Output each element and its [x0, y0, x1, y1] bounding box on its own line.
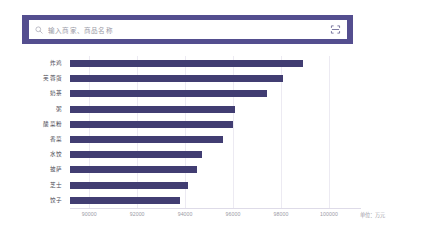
- bar[interactable]: [70, 121, 233, 128]
- bar-row[interactable]: [70, 71, 353, 86]
- search-input-wrapper[interactable]: 输入商家、商品名称: [29, 20, 347, 39]
- y-axis-labels: 炸鸡芙蓉蛋奶茶粥酸菜粉香菜水饺披萨芝士饺子: [0, 56, 66, 208]
- bar-row[interactable]: [70, 86, 353, 101]
- x-axis-tick-label: 94000: [178, 211, 193, 217]
- x-axis-tick-label: 92000: [130, 211, 145, 217]
- scan-code-icon[interactable]: [330, 24, 341, 35]
- bar[interactable]: [70, 90, 267, 97]
- x-axis-labels: 9000092000940009600098000100000: [70, 211, 353, 223]
- y-axis-tick-label: 芝士: [50, 178, 62, 193]
- y-axis-tick-label: 奶茶: [50, 86, 62, 101]
- unit-label: 单位：万元: [360, 211, 386, 218]
- x-axis-tick-label: 90000: [82, 211, 97, 217]
- bar-row[interactable]: [70, 193, 353, 208]
- x-axis-line: [70, 208, 361, 209]
- bar[interactable]: [70, 151, 202, 158]
- x-axis-tick-label: 100000: [320, 211, 338, 217]
- plot-area: [70, 56, 353, 208]
- bar-row[interactable]: [70, 178, 353, 193]
- x-axis-tick-label: 98000: [274, 211, 289, 217]
- y-axis-tick-label: 炸鸡: [50, 56, 62, 71]
- y-axis-tick-label: 酸菜粉: [43, 117, 62, 132]
- bar-chart: 炸鸡芙蓉蛋奶茶粥酸菜粉香菜水饺披萨芝士饺子 900009200094000960…: [0, 50, 421, 234]
- bar-rows: [70, 56, 353, 208]
- search-header-band: 输入商家、商品名称: [22, 15, 353, 44]
- bar[interactable]: [70, 136, 223, 143]
- bar[interactable]: [70, 106, 235, 113]
- x-axis-tick-label: 96000: [226, 211, 241, 217]
- bar[interactable]: [70, 75, 283, 82]
- bar-row[interactable]: [70, 56, 353, 71]
- y-axis-tick-label: 水饺: [50, 147, 62, 162]
- bar-row[interactable]: [70, 117, 353, 132]
- bar-row[interactable]: [70, 162, 353, 177]
- search-icon: [35, 26, 43, 34]
- bar-row[interactable]: [70, 147, 353, 162]
- bar[interactable]: [70, 166, 197, 173]
- bar[interactable]: [70, 182, 188, 189]
- y-axis-tick-label: 香菜: [50, 132, 62, 147]
- y-axis-tick-label: 芙蓉蛋: [43, 71, 62, 86]
- bar[interactable]: [70, 60, 303, 67]
- bar-row[interactable]: [70, 132, 353, 147]
- search-input[interactable]: 输入商家、商品名称: [48, 25, 330, 35]
- bar[interactable]: [70, 197, 180, 204]
- y-axis-tick-label: 饺子: [50, 193, 62, 208]
- chart-page: 输入商家、商品名称 炸鸡芙蓉蛋奶茶粥酸菜粉香菜水饺披萨芝士饺子 90000920…: [0, 0, 421, 234]
- y-axis-tick-label: 披萨: [50, 162, 62, 177]
- bar-row[interactable]: [70, 102, 353, 117]
- y-axis-tick-label: 粥: [56, 102, 62, 117]
